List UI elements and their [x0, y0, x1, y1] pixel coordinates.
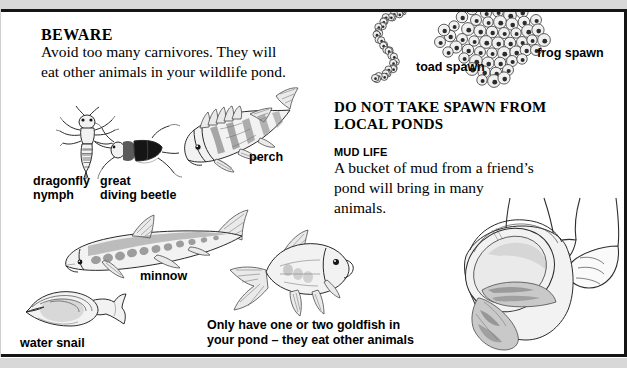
- bottom-rule: [0, 354, 627, 357]
- label-minnow: minnow: [140, 269, 187, 283]
- do-not-take-spawn-heading: DO NOT TAKE SPAWN FROM LOCAL PONDS: [334, 99, 564, 133]
- perch-illustration: [170, 84, 300, 184]
- label-frog-spawn: frog spawn: [537, 46, 604, 60]
- label-great-diving-beetle: great diving beetle: [100, 174, 176, 202]
- goldfish-caption: Only have one or two goldfish in your po…: [207, 318, 422, 348]
- top-grey-band: [0, 0, 627, 9]
- top-rule: [0, 9, 627, 12]
- bucket-of-mud-illustration: [448, 198, 627, 363]
- goldfish-illustration: [228, 222, 358, 322]
- label-toad-spawn: toad spawn: [416, 60, 485, 74]
- mud-life-heading: MUD LIFE: [334, 146, 388, 158]
- label-dragonfly-nymph: dragonfly nymph: [33, 174, 90, 202]
- label-water-snail: water snail: [20, 336, 85, 350]
- beware-body-text: Avoid too many carnivores. They will eat…: [41, 42, 287, 82]
- bottom-grey-band: [0, 358, 627, 368]
- pond-guide-page: BEWARE Avoid too many carnivores. They w…: [0, 0, 627, 368]
- water-snail-illustration: [18, 286, 128, 336]
- label-perch: perch: [249, 150, 283, 164]
- great-diving-beetle-illustration: [92, 120, 182, 182]
- mud-life-body-text: A bucket of mud from a friend’s pond wil…: [334, 158, 534, 218]
- left-rule: [0, 9, 1, 357]
